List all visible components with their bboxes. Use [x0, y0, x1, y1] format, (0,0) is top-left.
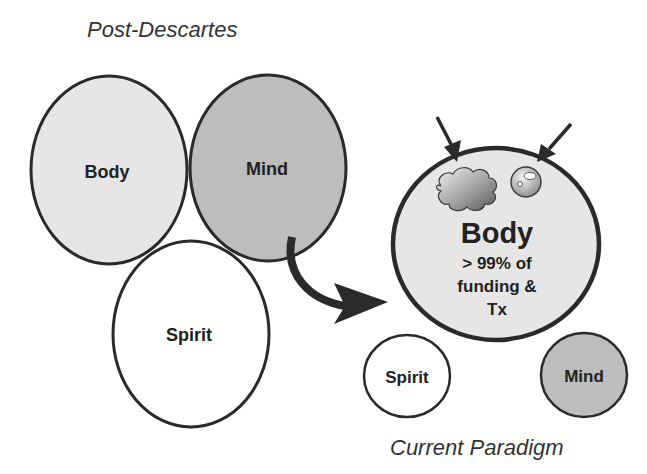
right-spirit-circle: Spirit — [364, 335, 450, 417]
left-mind-label: Mind — [246, 159, 288, 179]
funding-line-2: funding & — [457, 277, 536, 296]
left-body-label: Body — [85, 162, 130, 182]
right-body-label: Body — [461, 217, 534, 249]
left-spirit-label: Spirit — [166, 325, 212, 345]
left-body-circle: Body — [31, 76, 187, 264]
left-mind-circle: Mind — [190, 75, 346, 261]
cloud-icon — [437, 168, 497, 211]
right-mind-circle: Mind — [541, 333, 627, 417]
funding-line-1: > 99% of — [462, 254, 532, 273]
right-incoming-arrow-icon — [537, 124, 571, 162]
paradigm-diagram: Post-Descartes Body Mind Spirit Body > 9… — [0, 0, 647, 474]
post-descartes-title: Post-Descartes — [87, 17, 237, 42]
right-body-circle: Body > 99% of funding & Tx — [393, 148, 599, 340]
funding-line-3: Tx — [487, 300, 507, 319]
left-incoming-arrow-icon — [437, 117, 461, 162]
current-paradigm-title: Current Paradigm — [390, 435, 564, 460]
right-mind-label: Mind — [564, 367, 604, 386]
left-spirit-circle: Spirit — [113, 241, 269, 427]
right-spirit-label: Spirit — [385, 368, 429, 387]
bubble-icon — [511, 167, 541, 197]
